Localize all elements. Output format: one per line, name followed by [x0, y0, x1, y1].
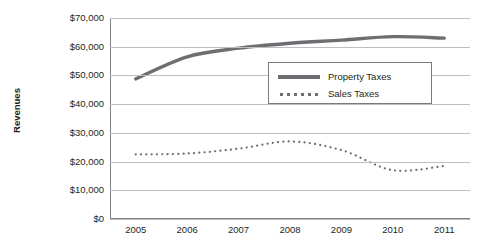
series-group	[110, 18, 470, 219]
gridline	[110, 162, 470, 163]
y-axis-tick-label: $50,000	[44, 70, 104, 80]
gridline	[110, 190, 470, 191]
gridline	[110, 219, 470, 220]
x-axis-tick-label: 2009	[331, 224, 352, 235]
x-axis-tick-label: 2007	[228, 224, 249, 235]
legend-label-sales-taxes: Sales Taxes	[320, 88, 379, 99]
y-axis-tick-label: $0	[44, 214, 104, 224]
series-line-sales-taxes	[136, 141, 445, 170]
y-axis-tick-labels: $70,000$60,000$50,000$40,000$30,000$20,0…	[42, 0, 104, 251]
revenues-line-chart: Revenues $70,000$60,000$50,000$40,000$30…	[0, 0, 479, 251]
legend-item-property-taxes: Property Taxes	[269, 68, 431, 85]
y-axis-title: Revenues	[11, 63, 22, 159]
gridline	[110, 104, 470, 105]
legend-item-sales-taxes: Sales Taxes	[269, 85, 431, 102]
legend-solid-line-icon	[278, 71, 320, 83]
y-axis-tick-label: $40,000	[44, 99, 104, 109]
y-axis-tick-label: $60,000	[44, 42, 104, 52]
x-axis-tick-label: 2008	[279, 224, 300, 235]
chart-legend: Property Taxes Sales Taxes	[268, 62, 432, 104]
x-axis-tick-label: 2006	[177, 224, 198, 235]
y-axis-tick-label: $10,000	[44, 185, 104, 195]
x-axis-tick-labels: 2005200620072008200920102011	[110, 224, 470, 244]
legend-label-property-taxes: Property Taxes	[320, 71, 391, 82]
y-axis-tick-label: $30,000	[44, 128, 104, 138]
gridline	[110, 18, 470, 19]
y-axis-tick-label: $20,000	[44, 157, 104, 167]
legend-dotted-line-icon	[278, 88, 320, 100]
gridline	[110, 133, 470, 134]
y-axis-tick-label: $70,000	[44, 13, 104, 23]
gridline	[110, 47, 470, 48]
x-axis-tick-label: 2005	[125, 224, 146, 235]
x-axis-tick-label: 2011	[434, 224, 454, 235]
plot-area	[110, 18, 470, 219]
x-axis-tick-label: 2010	[382, 224, 403, 235]
